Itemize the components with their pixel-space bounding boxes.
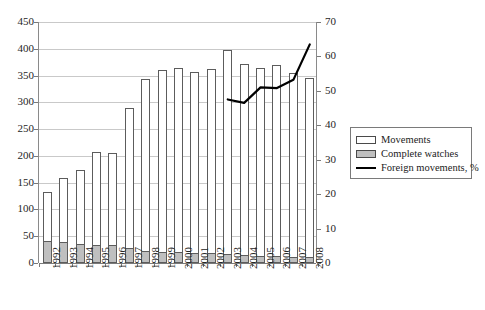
x-axis-tick-label: 1994 (84, 247, 95, 269)
x-axis-tick-label: 2002 (215, 247, 226, 269)
legend-item-complete-watches: Complete watches (356, 148, 467, 159)
line-path (228, 44, 310, 103)
y-axis-tick-label: 150 (0, 177, 34, 188)
x-axis-tick-label: 2004 (248, 247, 259, 269)
gray-square-swatch-icon (356, 150, 376, 158)
y-axis-tick-label: 50 (0, 230, 34, 241)
x-axis-tick (39, 263, 40, 267)
y-axis-tick-label: 300 (0, 96, 34, 107)
x-axis-tick-label: 2007 (297, 247, 308, 269)
y2-axis-tick-label: 70 (325, 16, 355, 27)
y-axis-tick-label: 350 (0, 70, 34, 81)
y2-axis-tick-label: 20 (325, 188, 355, 199)
legend-item-label: Complete watches (381, 148, 458, 159)
x-axis-tick-label: 1999 (166, 247, 177, 269)
x-axis-tick-label: 2000 (183, 247, 194, 269)
chart-legend: Movements Complete watches Foreign movem… (350, 127, 472, 179)
black-line-swatch-icon (356, 164, 376, 172)
x-axis-tick-label: 1998 (150, 247, 161, 269)
legend-item-movements: Movements (356, 134, 467, 145)
x-axis-tick-label: 1997 (133, 247, 144, 269)
y-axis-tick (34, 263, 38, 264)
legend-item-foreign-movements: Foreign movements, % (356, 162, 467, 173)
y-axis-tick-label: 450 (0, 16, 34, 27)
y2-axis-tick-label: 50 (325, 85, 355, 96)
x-axis-tick-label: 2006 (281, 247, 292, 269)
foreign-movements-line-series (39, 22, 318, 263)
x-axis-tick-label: 2005 (265, 247, 276, 269)
chart-canvas: 050100150200250300350400450 010203040506… (0, 0, 485, 310)
plot-area (38, 22, 317, 263)
x-axis-tick-label: 1995 (100, 247, 111, 269)
x-axis-tick-label: 1996 (117, 247, 128, 269)
y-axis-tick-label: 0 (0, 257, 34, 268)
x-axis-tick-label: 1992 (51, 247, 62, 269)
y-axis-tick-label: 250 (0, 123, 34, 134)
y-axis-tick-label: 400 (0, 43, 34, 54)
legend-item-label: Movements (381, 134, 431, 145)
legend-item-label: Foreign movements, % (381, 162, 479, 173)
y2-axis-tick-label: 10 (325, 223, 355, 234)
x-axis-tick-label: 2003 (232, 247, 243, 269)
y-axis-tick-label: 100 (0, 203, 34, 214)
x-axis-tick-label: 2008 (314, 247, 325, 269)
x-axis-tick-label: 1993 (68, 247, 79, 269)
x-axis-tick-label: 2001 (199, 247, 210, 269)
y-axis-tick-label: 200 (0, 150, 34, 161)
y2-axis-tick-label: 0 (325, 257, 355, 268)
y2-axis-tick-label: 60 (325, 50, 355, 61)
open-square-swatch-icon (356, 136, 376, 144)
